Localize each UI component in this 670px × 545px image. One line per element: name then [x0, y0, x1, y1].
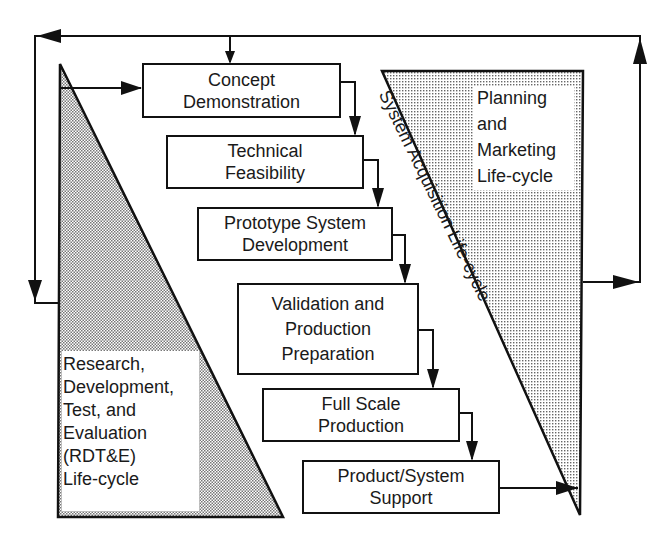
arrow-down-icon — [349, 116, 361, 136]
arrow-down-icon — [427, 369, 439, 389]
arrow-left-icon — [37, 29, 61, 43]
arrow-down-icon — [372, 188, 384, 208]
arrow-right-icon — [121, 81, 142, 95]
stage-prototype-development: Prototype System Development — [197, 207, 393, 261]
arrow-down-icon — [399, 264, 411, 284]
arrow-up-icon — [633, 38, 647, 64]
arrow-down-icon — [28, 280, 42, 301]
stage-technical-feasibility: Technical Feasibility — [166, 135, 364, 189]
stage-product-system-support: Product/System Support — [302, 460, 500, 514]
stage-validation-production-preparation: Validation and Production Preparation — [237, 283, 419, 375]
arrow-right-icon — [613, 275, 639, 289]
stage-full-scale-production: Full Scale Production — [262, 388, 460, 442]
arrow-down-icon — [466, 441, 478, 461]
planning-lifecycle-label: Planning and Marketing Life-cycle — [477, 85, 556, 189]
rdte-lifecycle-label: Research, Development, Test, and Evaluat… — [63, 353, 174, 491]
stage-concept-demonstration: Concept Demonstration — [142, 63, 341, 118]
